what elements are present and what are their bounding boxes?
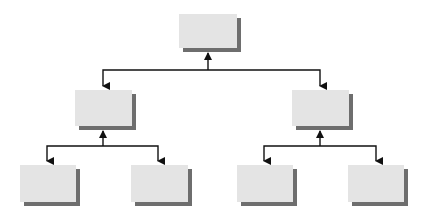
edge-mid-right-children (264, 131, 376, 161)
node-leaf-1 (20, 165, 76, 202)
edge-root-children (103, 53, 320, 86)
node-root (179, 14, 237, 48)
node-leaf-4 (348, 165, 404, 202)
node-leaf-2 (131, 165, 188, 202)
node-mid-right (292, 90, 349, 126)
node-leaf-3 (237, 165, 293, 202)
node-mid-left (75, 90, 132, 126)
edge-mid-left-children (47, 131, 158, 161)
